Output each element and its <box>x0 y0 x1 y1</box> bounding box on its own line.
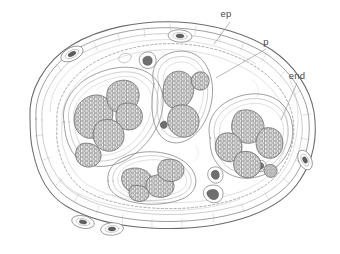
label-end: end <box>289 70 305 81</box>
epidermis-texture-arc-right <box>276 80 298 181</box>
strand <box>163 71 194 109</box>
strand <box>168 105 199 137</box>
resin-duct-top-center <box>139 52 156 69</box>
resin-duct-bottom-right-lower <box>203 185 223 203</box>
bundle-bottom-center <box>108 152 196 204</box>
stoma-bottom-center <box>100 222 124 236</box>
bundle-top-center-accessory-dot <box>160 121 167 128</box>
stoma-top-right <box>117 52 132 65</box>
labels-group: ep p end <box>221 8 306 81</box>
strand <box>256 128 283 159</box>
stoma-bottom-left <box>70 214 95 231</box>
bundle-top-center <box>152 51 213 143</box>
label-ep: ep <box>221 8 232 19</box>
strand <box>76 143 102 167</box>
strand <box>234 151 261 177</box>
stoma-top-center <box>168 29 193 43</box>
label-p: p <box>263 36 268 47</box>
leader-p <box>216 49 266 78</box>
leader-ep <box>214 22 230 44</box>
figure-root: ep p end <box>0 0 340 254</box>
strand <box>129 185 149 201</box>
resin-duct-bottom-right-upper <box>208 167 223 183</box>
strand <box>264 164 277 177</box>
strand <box>93 119 124 151</box>
strand <box>158 159 184 181</box>
cross-section-drawing: ep p end <box>0 0 340 254</box>
strand <box>191 72 209 90</box>
bundle-right <box>209 94 293 178</box>
